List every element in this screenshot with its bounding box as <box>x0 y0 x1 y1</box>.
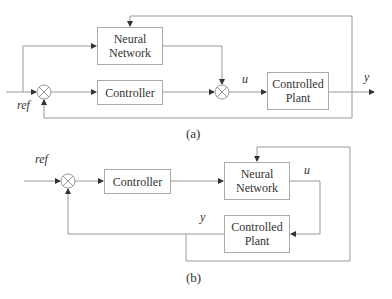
y-label-b: y <box>200 210 205 225</box>
diagram-lines <box>0 0 392 299</box>
ref-label-a: ref <box>17 98 30 113</box>
plant-block-b: Controlled Plant <box>224 215 290 253</box>
u-label-a: u <box>242 72 248 87</box>
neural-network-block-b: Neural Network <box>224 162 290 200</box>
ref-label-b: ref <box>35 152 48 167</box>
controller-block-b: Controller <box>104 169 171 194</box>
plant-block-a: Controlled Plant <box>267 72 329 110</box>
caption-a: (a) <box>186 126 200 142</box>
controller-block-a: Controller <box>97 80 163 105</box>
neural-network-block-a: Neural Network <box>97 27 163 65</box>
u-label-b: u <box>304 163 310 178</box>
caption-b: (b) <box>186 270 201 286</box>
y-label-a: y <box>364 70 369 85</box>
